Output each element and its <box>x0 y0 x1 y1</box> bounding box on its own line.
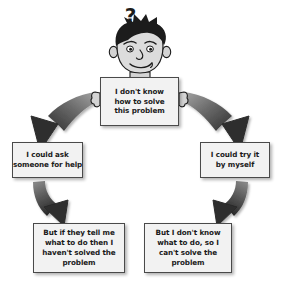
diagram-canvas: ? <box>0 0 281 283</box>
option-box-try-myself[interactable]: I could try it by myself <box>200 142 270 178</box>
box-line: problem <box>34 258 124 268</box>
box-line: how to solve <box>101 97 178 107</box>
statement-box-problem[interactable]: I don't know how to solve this problem <box>100 77 179 126</box>
box-line: what to do, so I <box>145 238 231 248</box>
box-line: But I don't know <box>145 228 231 238</box>
box-line: someone for help <box>13 160 82 170</box>
box-line: But if they tell me <box>34 228 124 238</box>
box-line: this problem <box>101 106 178 116</box>
left-hand-icon <box>91 92 100 107</box>
box-line: I could try it <box>201 150 269 160</box>
box-line: by myself <box>201 160 269 170</box>
box-line: problem <box>145 258 231 268</box>
box-line: I could ask <box>13 150 82 160</box>
outcome-box-not-solved[interactable]: But if they tell me what to do then I ha… <box>33 223 125 273</box>
outcome-box-cant-solve[interactable]: But I don't know what to do, so I can't … <box>144 223 232 273</box>
option-box-ask-someone[interactable]: I could ask someone for help <box>12 142 83 178</box>
box-line: I don't know <box>101 87 178 97</box>
box-line: can't solve the <box>145 248 231 258</box>
box-line: haven't solved the <box>34 248 124 258</box>
right-hand-icon <box>179 92 188 107</box>
box-line: what to do then I <box>34 238 124 248</box>
